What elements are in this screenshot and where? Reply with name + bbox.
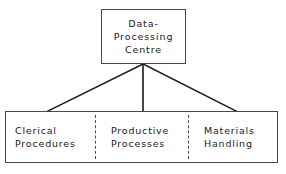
connector-right-line: [143, 64, 236, 111]
node-data-processing-centre: Data- Processing Centre: [101, 9, 186, 64]
node-materials-handling: Materials Handling: [188, 112, 277, 162]
node-label-line-3: Centre: [125, 43, 162, 56]
node-label-line-1: Clerical: [15, 124, 95, 137]
node-label-line-2: Processes: [104, 137, 188, 150]
connector-left-line: [48, 64, 143, 111]
diagram-canvas: Data- Processing Centre Clerical Procedu…: [0, 0, 286, 174]
node-clerical-procedures: Clerical Procedures: [6, 112, 95, 162]
node-label-line-2: Handling: [197, 137, 277, 150]
node-label-line-2: Processing: [114, 30, 174, 43]
node-label-line-1: Data-: [128, 17, 159, 30]
node-productive-processes: Productive Processes: [95, 112, 188, 162]
node-label-line-1: Materials: [197, 124, 277, 137]
node-label-line-1: Productive: [104, 124, 188, 137]
child-node-band: Clerical Procedures Productive Processes…: [5, 111, 278, 163]
node-label-line-2: Procedures: [15, 137, 95, 150]
